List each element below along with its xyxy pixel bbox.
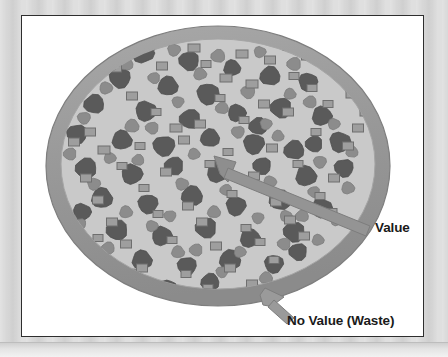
particle-square	[255, 239, 265, 246]
particle-square	[241, 225, 251, 232]
particle-square	[127, 92, 138, 100]
particle-square	[353, 124, 364, 132]
particle-square	[179, 136, 190, 144]
particle-square	[93, 196, 104, 204]
particle-square	[239, 117, 249, 124]
particle	[150, 301, 162, 312]
particle-square	[195, 120, 206, 128]
particle-square	[265, 56, 276, 64]
particle-square	[153, 211, 163, 218]
particle-square	[311, 129, 321, 136]
particle-square	[117, 163, 127, 170]
particle-square	[181, 271, 191, 278]
particle-square	[81, 174, 92, 182]
particle-square	[137, 264, 148, 272]
particle-square	[307, 85, 317, 92]
particle-square	[121, 240, 132, 248]
particle-square	[69, 138, 80, 146]
particle-square	[236, 50, 248, 58]
particle-square	[139, 185, 149, 192]
particle-square	[285, 216, 296, 224]
particle-square	[211, 242, 222, 250]
particle-square	[227, 191, 237, 198]
particle-square	[329, 174, 340, 182]
particle-square	[188, 44, 200, 52]
particle-square	[170, 124, 182, 132]
particle-square	[205, 161, 215, 168]
particle-square	[283, 108, 294, 116]
particle-square	[343, 142, 354, 150]
particle-square	[315, 193, 325, 200]
particle-square	[259, 100, 270, 108]
particle-square	[167, 237, 177, 244]
particle-square	[135, 143, 145, 150]
particle-square	[269, 257, 279, 264]
particle-square	[107, 218, 118, 226]
backdrop-bottom-edge	[0, 342, 448, 357]
particle-square	[85, 128, 96, 136]
particle-square	[183, 202, 194, 210]
particle-square	[93, 235, 103, 242]
slide-root: Value No Value (Waste)	[0, 0, 448, 357]
particle-square	[246, 80, 258, 88]
particle-square	[293, 161, 303, 168]
particle-square	[299, 232, 310, 240]
particle-square	[197, 218, 208, 226]
particle-square	[289, 73, 299, 80]
disc-diagram-svg	[22, 16, 424, 337]
particle-square	[323, 101, 333, 108]
content-panel: Value No Value (Waste)	[21, 15, 424, 337]
particle-square	[220, 74, 232, 82]
particle-square	[223, 149, 233, 156]
particle-square	[189, 308, 200, 316]
particle-square	[267, 144, 278, 152]
particle-square	[151, 109, 161, 116]
particle-square	[157, 62, 168, 70]
particle-square	[161, 168, 172, 176]
particle-square	[98, 146, 110, 154]
value-label: Value	[375, 220, 410, 235]
figure-stage: Value No Value (Waste)	[22, 16, 423, 336]
no-value-label: No Value (Waste)	[287, 313, 394, 328]
particle-square	[225, 264, 236, 272]
particle-square	[215, 95, 225, 102]
particle-square	[201, 61, 211, 68]
